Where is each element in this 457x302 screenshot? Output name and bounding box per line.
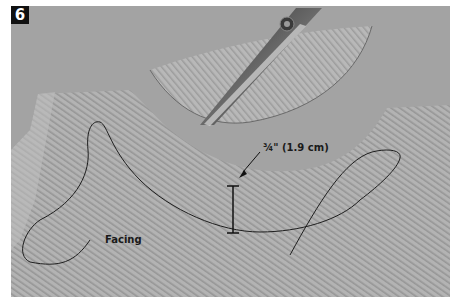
- photo-illustration: [11, 6, 450, 297]
- step-number-badge: 6: [11, 6, 29, 24]
- measurement-label: ¾" (1.9 cm): [263, 142, 329, 153]
- sewing-photo: [11, 6, 450, 297]
- facing-label: Facing: [105, 234, 142, 245]
